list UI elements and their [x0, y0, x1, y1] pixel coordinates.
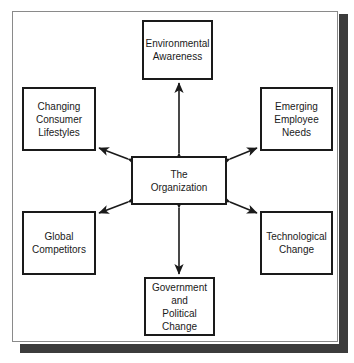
- node-global-competitors: Global Competitors: [22, 211, 96, 275]
- node-environmental-awareness: Environmental Awareness: [142, 20, 213, 80]
- node-government-and-political-change: Government and Political Change: [144, 277, 215, 336]
- node-the-organization: The Organization: [131, 156, 227, 205]
- node-changing-consumer-lifestyles: Changing Consumer Lifestyles: [22, 87, 96, 151]
- node-emerging-employee-needs: Emerging Employee Needs: [260, 87, 333, 151]
- connector-center-to-top-left: [99, 148, 128, 159]
- connector-center-to-bottom-right: [230, 202, 257, 213]
- node-label: Government and Political Change: [152, 281, 207, 333]
- node-label: Environmental Awareness: [146, 37, 210, 63]
- figure-canvas: Environmental Awareness Changing Consume…: [0, 0, 354, 363]
- node-label: The Organization: [151, 168, 208, 194]
- node-label: Technological Change: [266, 230, 327, 256]
- node-technological-change: Technological Change: [260, 211, 333, 275]
- connector-center-to-bottom-left: [99, 202, 128, 213]
- connector-center-to-top-right: [230, 148, 257, 159]
- node-label: Global Competitors: [32, 230, 86, 256]
- node-label: Emerging Employee Needs: [274, 100, 318, 139]
- node-label: Changing Consumer Lifestyles: [36, 100, 82, 139]
